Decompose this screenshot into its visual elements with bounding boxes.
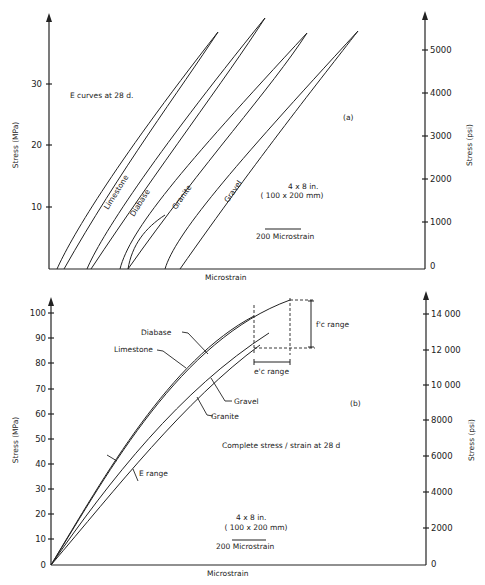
y-axis-label: Stress (MPa) [11, 122, 20, 169]
leader-lines [107, 332, 232, 481]
range-arrows [254, 300, 314, 365]
tick-label: 10 [35, 534, 46, 544]
tick-label: 6000 [431, 451, 453, 461]
tick-label: 70 [35, 384, 46, 394]
tick-label: 0 [430, 261, 435, 271]
tick-label: 12 000 [431, 345, 461, 355]
arrow-icon [48, 297, 54, 306]
tick-label: 2000 [431, 523, 453, 533]
tick-label: 14 000 [431, 309, 461, 319]
tick-label: 4000 [430, 88, 452, 98]
curve-label-limestone: Limestone [114, 345, 153, 354]
y-axis-label-right: Stress (psi) [467, 419, 476, 461]
arrow-icon [46, 13, 52, 22]
x-axis-label: Microstrain [207, 569, 249, 578]
y-axis-label-right: Stress (psi) [465, 124, 474, 166]
tick-label: 2000 [430, 174, 452, 184]
specimen-size: 4 x 8 in. [288, 182, 318, 191]
panel-a-title: E curves at 28 d. [70, 91, 133, 100]
tick-label: 30 [31, 79, 42, 89]
curve-label-limestone: Limestone [102, 173, 130, 211]
arrow-icon [423, 291, 429, 300]
tick-label: 40 [35, 459, 46, 469]
curve-label-diabase: Diabase [128, 187, 152, 218]
curve-label-gravel: Gravel [234, 397, 259, 406]
curve-label-gravel: Gravel [222, 179, 244, 204]
tick-label: 10 [31, 202, 42, 212]
tick-label: 4000 [431, 487, 453, 497]
tick-label: 20 [31, 140, 42, 150]
curve-label-diabase: Diabase [141, 328, 172, 337]
tick-label: 90 [35, 333, 46, 343]
range-box [254, 298, 315, 355]
tick-label: 100 [30, 308, 46, 318]
panel-a-axes [46, 16, 428, 269]
specimen-size-mm: ( 100 x 200 mm) [260, 191, 323, 200]
scale-label: 200 Microstrain [216, 542, 274, 551]
tick-label: 80 [35, 358, 46, 368]
tick-label: 3000 [430, 131, 452, 141]
tick-label: 0 [431, 559, 436, 569]
ec-range-label: e'c range [254, 367, 289, 376]
tick-label: 60 [35, 409, 46, 419]
panel-b-title: Complete stress / strain at 28 d [222, 441, 341, 450]
tick-label: 8000 [431, 415, 453, 425]
e-range-label: E range [139, 469, 168, 478]
tick-label: 5000 [430, 45, 452, 55]
scale-label: 200 Microstrain [256, 232, 314, 241]
panel-b-label: (b) [350, 399, 361, 408]
figure: 10 20 30 0 1000 2000 3000 4000 5000 E cu… [0, 0, 485, 585]
tick-label: 30 [35, 484, 46, 494]
tick-label: 1000 [430, 217, 452, 227]
curve-label-granite: Granite [170, 183, 194, 211]
tick-label: 0 [41, 560, 46, 570]
fc-range-label: f'c range [316, 320, 349, 329]
specimen-size-mm: ( 100 x 200 mm) [224, 523, 287, 532]
x-axis-label: Microstrain [205, 273, 247, 282]
tick-label: 50 [35, 434, 46, 444]
y-axis-label: Stress (MPa) [11, 417, 20, 464]
specimen-size: 4 x 8 in. [236, 513, 266, 522]
panel-a-label: (a) [343, 113, 354, 122]
curve-label-granite: Granite [211, 412, 239, 421]
arrow-icon [422, 11, 428, 20]
tick-label: 10 000 [431, 380, 461, 390]
tick-label: 20 [35, 509, 46, 519]
